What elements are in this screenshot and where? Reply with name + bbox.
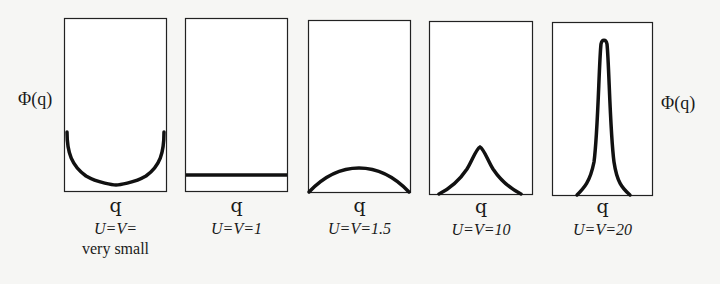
- caption-20: U=V=20: [547, 221, 658, 239]
- panel-10: q: [429, 21, 533, 195]
- caption-text: U=V=20: [573, 221, 632, 238]
- x-axis-label: q: [185, 194, 288, 216]
- y-axis-label-left: Φ(q): [18, 89, 52, 110]
- x-axis-label: q: [429, 195, 533, 217]
- caption-text: U=V=10: [452, 221, 511, 238]
- y-axis-label-right: Φ(q): [661, 93, 695, 114]
- panel-20: q: [552, 22, 653, 196]
- caption-very-small: U=V= very small: [64, 220, 167, 258]
- x-axis-label: q: [308, 194, 411, 216]
- panel-very-small: q: [64, 18, 167, 192]
- caption-line-1: U=V=: [94, 220, 137, 237]
- caption-10: U=V=10: [424, 221, 538, 239]
- caption-text: U=V=1.5: [328, 220, 391, 237]
- panel-1-5: q: [308, 20, 411, 193]
- plot-20: [552, 22, 653, 196]
- panel-1: q: [185, 18, 288, 192]
- plot-1: [185, 18, 288, 192]
- caption-text: U=V=1: [211, 220, 262, 237]
- plot-1-5: [308, 20, 411, 193]
- plot-very-small: [64, 18, 167, 192]
- plot-10: [429, 21, 533, 195]
- caption-1-5: U=V=1.5: [303, 220, 416, 238]
- x-axis-label: q: [64, 194, 167, 216]
- x-axis-label: q: [552, 195, 653, 217]
- caption-line-2: very small: [64, 240, 167, 258]
- caption-1: U=V=1: [185, 220, 288, 238]
